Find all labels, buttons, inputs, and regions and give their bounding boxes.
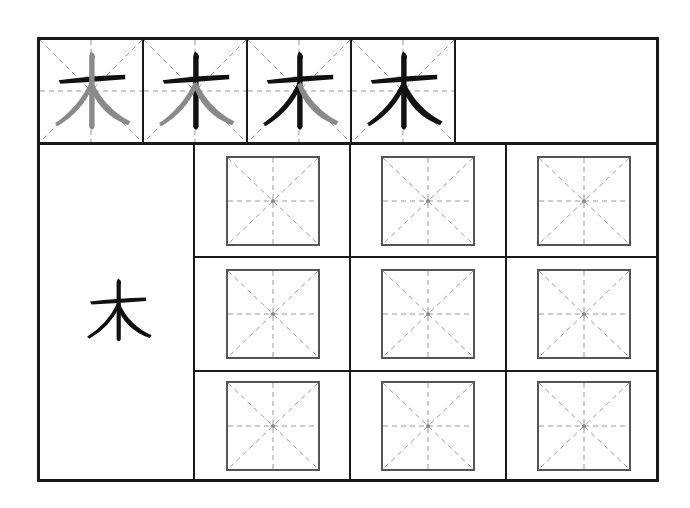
mi-grid-box[interactable] [381, 156, 475, 246]
stroke-order-glyph [248, 40, 350, 142]
stroke-order-glyph [352, 40, 454, 142]
mi-grid-guides [539, 383, 629, 469]
mi-grid-box[interactable] [381, 269, 475, 359]
mi-grid-box[interactable] [537, 269, 631, 359]
model-character-cell [40, 145, 195, 479]
model-character-glyph [83, 275, 153, 345]
mi-grid-guides [383, 158, 473, 244]
practice-cell[interactable] [350, 257, 506, 371]
practice-cell[interactable] [350, 371, 506, 481]
practice-cell[interactable] [506, 257, 661, 371]
mi-grid-box[interactable] [226, 156, 320, 246]
mi-grid-guides [383, 271, 473, 357]
mi-grid-box[interactable] [226, 381, 320, 471]
mi-grid-box[interactable] [226, 269, 320, 359]
stroke-order-step-1 [40, 40, 144, 142]
character-worksheet [37, 37, 659, 482]
practice-cell[interactable] [195, 371, 350, 481]
mi-grid-guides [228, 271, 318, 357]
mi-grid-guides [228, 158, 318, 244]
practice-cell[interactable] [350, 145, 506, 257]
mi-grid-guides [539, 158, 629, 244]
stroke-order-step-3 [248, 40, 352, 142]
mi-grid-box[interactable] [537, 156, 631, 246]
mi-grid-guides [383, 383, 473, 469]
stroke-order-step-4 [352, 40, 456, 142]
practice-cell[interactable] [195, 145, 350, 257]
stroke-order-blank-area [456, 40, 656, 142]
stroke-order-step-2 [144, 40, 248, 142]
practice-grid [195, 145, 656, 479]
mi-grid-guides [539, 271, 629, 357]
stroke-order-strip [40, 40, 656, 145]
mi-grid-box[interactable] [537, 381, 631, 471]
mi-grid-guides [228, 383, 318, 469]
stroke-order-glyph [144, 40, 246, 142]
mi-grid-box[interactable] [381, 381, 475, 471]
practice-cell[interactable] [195, 257, 350, 371]
practice-cell[interactable] [506, 145, 661, 257]
stroke-order-glyph [40, 40, 142, 142]
practice-cell[interactable] [506, 371, 661, 481]
